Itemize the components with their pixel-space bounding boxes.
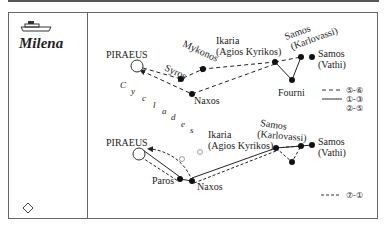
route-map: PIRAEUS Syros Mykonos Ikaria (Agios Kyri… xyxy=(0,0,385,230)
svg-text:d: d xyxy=(171,112,176,122)
label-samos-v-bottom-sub: (Vathi) xyxy=(318,147,346,159)
label-syros-top: Syros xyxy=(163,62,188,82)
label-ikaria-bottom-sub: (Agios Kyrikos) xyxy=(208,140,273,152)
region-label-cyclades: C y c l a d e s xyxy=(120,80,194,135)
label-ikaria-top-sub: (Agios Kyrikos) xyxy=(216,46,281,58)
label-naxos-top: Naxos xyxy=(194,95,220,106)
label-piraeus-top: PIRAEUS xyxy=(106,49,148,60)
legend-label-4: ⑦-① xyxy=(346,191,363,200)
label-fourni-top: Fourni xyxy=(278,87,305,98)
svg-text:c: c xyxy=(142,93,146,103)
svg-text:s: s xyxy=(190,125,194,135)
svg-text:y: y xyxy=(130,86,135,96)
label-ikaria-top: Ikaria xyxy=(216,35,240,46)
legend-label-1: ⑤-⑥ xyxy=(346,86,363,95)
svg-text:e: e xyxy=(181,119,185,129)
label-naxos-bottom: Naxos xyxy=(197,181,223,192)
legend-label-3: ②-⑤ xyxy=(346,104,363,113)
label-samos-v-bottom: Samos xyxy=(318,136,345,147)
svg-text:C: C xyxy=(120,80,127,90)
label-piraeus-bottom: PIRAEUS xyxy=(106,137,148,148)
label-samos-v-top: Samos xyxy=(318,48,345,59)
label-samos-v-top-sub: (Vathi) xyxy=(318,59,346,71)
label-paros-bottom: Paros xyxy=(152,175,174,186)
legend-label-2: ①-③ xyxy=(346,95,363,104)
svg-text:a: a xyxy=(162,106,167,116)
svg-text:l: l xyxy=(153,100,156,110)
label-ikaria-bottom: Ikaria xyxy=(208,129,232,140)
label-mykonos-top: Mykonos xyxy=(181,38,220,64)
